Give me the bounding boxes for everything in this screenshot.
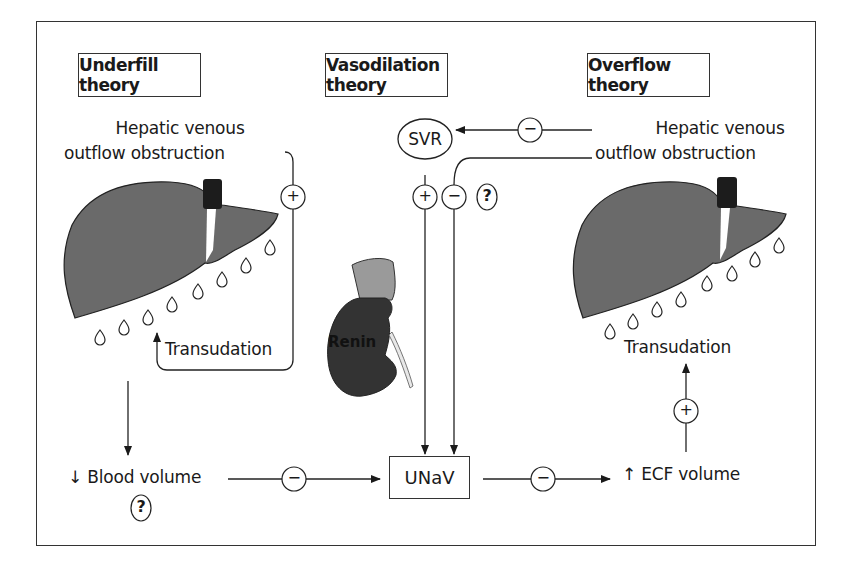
kidney-illustration [328, 258, 413, 396]
blood-volume-label: ↓ Blood volume [68, 467, 201, 487]
unav-box: UNaV [389, 456, 470, 499]
liver-left-illustration [64, 179, 278, 345]
right-cause-line2: outflow obstruction [595, 143, 756, 163]
left-transudation: Transudation [165, 339, 272, 359]
unav-to-ecf-sign: − [535, 468, 551, 487]
unav-label: UNaV [405, 467, 455, 488]
hepatic-vein [717, 177, 737, 208]
svr-to-unav-sign: + [417, 186, 433, 205]
left-cause-line1: Hepatic venous [100, 118, 260, 138]
liver-right-illustration [573, 177, 786, 339]
adrenal-gland [352, 258, 395, 300]
vasodilation-question: ? [479, 186, 495, 205]
svr-inhibit-sign: − [522, 119, 538, 138]
blood-volume-question: ? [133, 497, 149, 516]
obstruction-to-unav-sign: − [446, 186, 462, 205]
right-cause-line1: Hepatic venous [640, 118, 800, 138]
svr-label: SVR [398, 129, 452, 149]
ecf-plus-sign: + [678, 400, 694, 419]
right-transudation: Transudation [624, 337, 731, 357]
hepatic-vein [203, 179, 222, 209]
renin-label: Renin [328, 333, 376, 351]
blood-to-unav-sign: − [286, 468, 302, 487]
feedback-plus-sign: + [285, 186, 301, 205]
ecf-volume-label: ↑ ECF volume [622, 464, 740, 484]
left-cause-line2: outflow obstruction [64, 143, 225, 163]
